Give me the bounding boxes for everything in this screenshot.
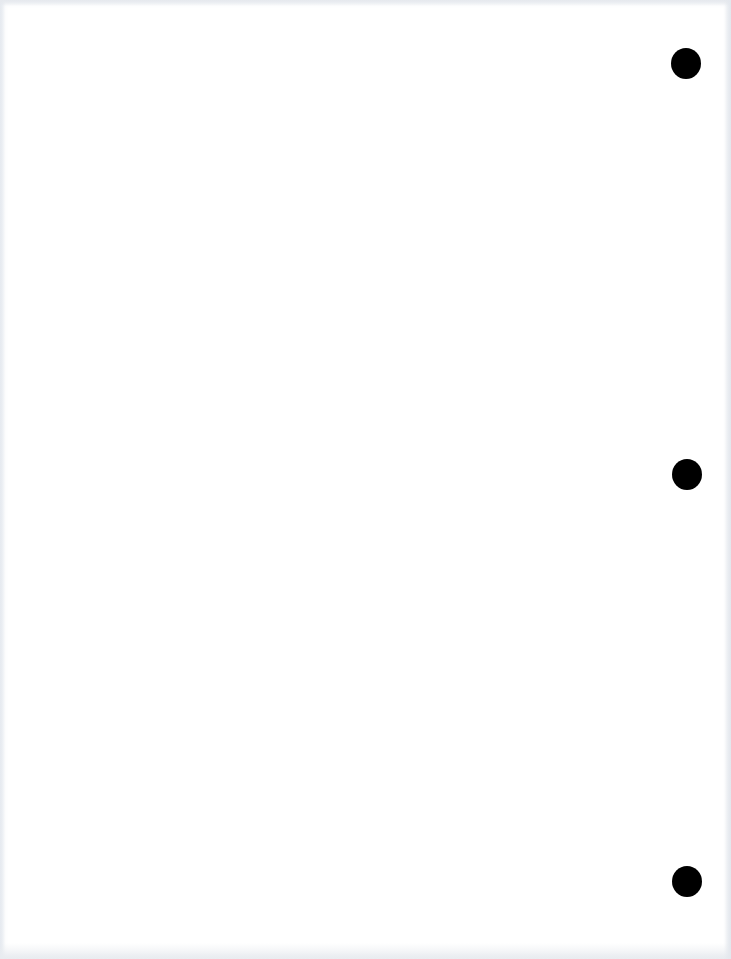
scan-edge-top <box>0 0 731 6</box>
blank-page <box>0 0 731 959</box>
punch-hole-middle <box>672 459 702 490</box>
punch-hole-bottom <box>672 866 702 897</box>
scan-edge-bottom <box>0 943 731 959</box>
punch-hole-top <box>671 48 701 79</box>
